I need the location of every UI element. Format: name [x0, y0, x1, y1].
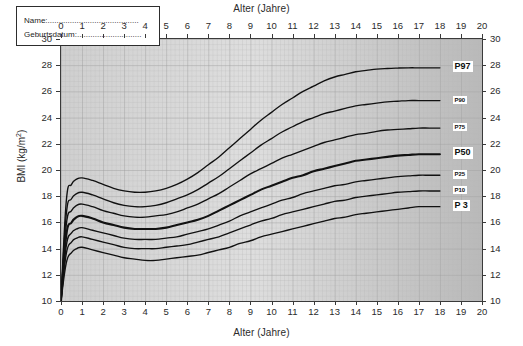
x-tick-label-bottom-3: 3 [113, 306, 135, 317]
y-tick-label-right-12: 12 [490, 269, 510, 280]
y-axis-title-exponent: 2 [15, 133, 22, 137]
x-tick-top-6 [187, 34, 188, 38]
x-tick-top-8 [229, 34, 230, 38]
x-tick-top-12 [314, 34, 315, 38]
y-tick-label-left-16: 16 [32, 216, 52, 227]
y-tick-label-right-22: 22 [490, 138, 510, 149]
y-tick-label-left-28: 28 [32, 59, 52, 70]
x-tick-bottom-2 [103, 301, 104, 305]
y-tick-left-12 [56, 275, 60, 276]
x-tick-label-top-0: 0 [50, 20, 72, 31]
y-tick-left-16 [56, 222, 60, 223]
percentile-label-p10: P10 [453, 186, 468, 194]
x-tick-top-11 [293, 34, 294, 38]
x-tick-bottom-6 [187, 301, 188, 305]
y-axis-title-text: BMI (kg/m [16, 137, 27, 183]
percentile-label-p75: P75 [453, 123, 468, 131]
y-tick-label-left-10: 10 [32, 295, 52, 306]
x-tick-label-top-16: 16 [387, 20, 409, 31]
y-tick-label-left-30: 30 [32, 33, 52, 44]
y-tick-label-left-20: 20 [32, 164, 52, 175]
x-tick-label-top-9: 9 [239, 20, 261, 31]
x-tick-label-bottom-8: 8 [218, 306, 240, 317]
x-tick-label-top-11: 11 [282, 20, 304, 31]
x-tick-label-bottom-4: 4 [134, 306, 156, 317]
y-tick-label-right-16: 16 [490, 216, 510, 227]
x-tick-label-top-4: 4 [134, 20, 156, 31]
x-tick-label-bottom-2: 2 [92, 306, 114, 317]
percentile-label-p90: P90 [453, 96, 468, 104]
x-tick-label-bottom-20: 20 [471, 306, 493, 317]
y-tick-label-left-24: 24 [32, 112, 52, 123]
percentile-label-p25: P25 [453, 170, 468, 178]
x-tick-label-bottom-11: 11 [282, 306, 304, 317]
x-tick-top-2 [103, 34, 104, 38]
x-tick-bottom-19 [461, 301, 462, 305]
x-tick-top-14 [356, 34, 357, 38]
x-tick-bottom-18 [440, 301, 441, 305]
x-tick-top-19 [461, 34, 462, 38]
x-tick-label-top-18: 18 [429, 20, 451, 31]
x-tick-bottom-12 [314, 301, 315, 305]
x-tick-label-top-12: 12 [303, 20, 325, 31]
x-tick-top-15 [377, 34, 378, 38]
x-tick-top-7 [208, 34, 209, 38]
x-tick-label-bottom-16: 16 [387, 306, 409, 317]
y-tick-left-24 [56, 118, 60, 119]
x-tick-bottom-14 [356, 301, 357, 305]
x-tick-bottom-10 [272, 301, 273, 305]
x-tick-bottom-5 [166, 301, 167, 305]
y-tick-right-30 [482, 39, 486, 40]
y-tick-label-left-12: 12 [32, 269, 52, 280]
x-tick-label-bottom-12: 12 [303, 306, 325, 317]
x-tick-label-top-8: 8 [218, 20, 240, 31]
x-tick-label-bottom-10: 10 [261, 306, 283, 317]
y-tick-right-24 [482, 118, 486, 119]
x-tick-label-top-20: 20 [471, 20, 493, 31]
x-tick-label-top-5: 5 [155, 20, 177, 31]
y-tick-right-12 [482, 275, 486, 276]
x-tick-bottom-16 [398, 301, 399, 305]
x-tick-top-5 [166, 34, 167, 38]
x-tick-label-bottom-9: 9 [239, 306, 261, 317]
x-tick-bottom-17 [419, 301, 420, 305]
y-tick-right-14 [482, 249, 486, 250]
x-tick-bottom-4 [145, 301, 146, 305]
plot-area [60, 38, 483, 302]
x-tick-top-3 [124, 34, 125, 38]
y-tick-label-left-14: 14 [32, 243, 52, 254]
x-tick-top-1 [82, 34, 83, 38]
y-tick-label-right-24: 24 [490, 112, 510, 123]
x-tick-bottom-9 [250, 301, 251, 305]
y-tick-label-right-20: 20 [490, 164, 510, 175]
y-tick-left-10 [56, 301, 60, 302]
y-tick-label-right-30: 30 [490, 33, 510, 44]
y-tick-label-left-18: 18 [32, 190, 52, 201]
y-tick-right-10 [482, 301, 486, 302]
y-tick-right-28 [482, 65, 486, 66]
y-axis-title: BMI (kg/m2) [15, 96, 27, 216]
x-tick-top-13 [335, 34, 336, 38]
y-tick-label-left-22: 22 [32, 138, 52, 149]
x-tick-bottom-7 [208, 301, 209, 305]
y-tick-left-26 [56, 91, 60, 92]
y-tick-left-28 [56, 65, 60, 66]
x-tick-bottom-3 [124, 301, 125, 305]
x-tick-label-top-15: 15 [366, 20, 388, 31]
y-tick-label-right-26: 26 [490, 85, 510, 96]
x-tick-label-bottom-18: 18 [429, 306, 451, 317]
x-tick-top-20 [482, 34, 483, 38]
bottom-axis-title: Alter (Jahre) [0, 327, 523, 338]
x-tick-label-top-17: 17 [408, 20, 430, 31]
x-tick-label-top-6: 6 [176, 20, 198, 31]
x-tick-label-top-14: 14 [345, 20, 367, 31]
x-tick-label-bottom-5: 5 [155, 306, 177, 317]
percentile-label-p3: P 3 [453, 200, 470, 211]
x-tick-top-16 [398, 34, 399, 38]
y-tick-right-16 [482, 222, 486, 223]
x-tick-top-4 [145, 34, 146, 38]
x-tick-label-bottom-6: 6 [176, 306, 198, 317]
y-tick-right-22 [482, 144, 486, 145]
x-tick-bottom-13 [335, 301, 336, 305]
y-tick-left-18 [56, 196, 60, 197]
